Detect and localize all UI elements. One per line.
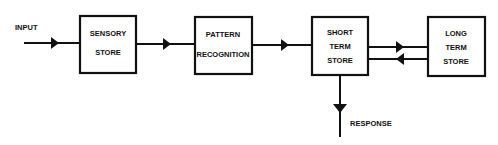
pattern-line-2: RECOGNITION: [197, 50, 250, 59]
long-line-3: STORE: [443, 57, 469, 66]
sensory-line-1: SENSORY: [90, 29, 126, 38]
arrow-right-icon: [396, 41, 404, 53]
sensory-line-2: STORE: [95, 48, 121, 57]
short-line-2: TERM: [329, 42, 350, 51]
arrow-down-icon: [333, 104, 347, 113]
long-line-1: LONG: [445, 29, 467, 38]
short-line-3: STORE: [327, 56, 353, 65]
short-line-1: SHORT: [327, 28, 354, 37]
arrow-right-icon: [51, 37, 59, 49]
arrow-left-icon: [396, 53, 404, 65]
input-label: INPUT: [15, 23, 38, 32]
sensory-store-box: [80, 16, 136, 73]
pattern-line-1: PATTERN: [206, 30, 240, 39]
arrow-right-icon: [281, 39, 289, 51]
arrow-right-icon: [163, 38, 171, 50]
memory-model-diagram: INPUT RESPONSE SENSORY STORE PATTERN REC…: [0, 0, 498, 145]
long-line-2: TERM: [445, 43, 466, 52]
response-label: RESPONSE: [350, 119, 392, 128]
pattern-recognition-box: [195, 17, 252, 74]
